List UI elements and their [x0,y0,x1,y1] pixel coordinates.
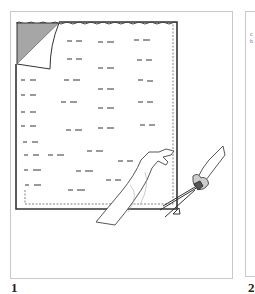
scissors [160,181,203,217]
holding-hand [96,149,174,225]
panel-2-label: 2 [248,280,255,294]
panel-1-illustration [0,0,255,294]
panel-1-label: 1 [11,280,18,294]
peeled-corner [17,23,59,69]
